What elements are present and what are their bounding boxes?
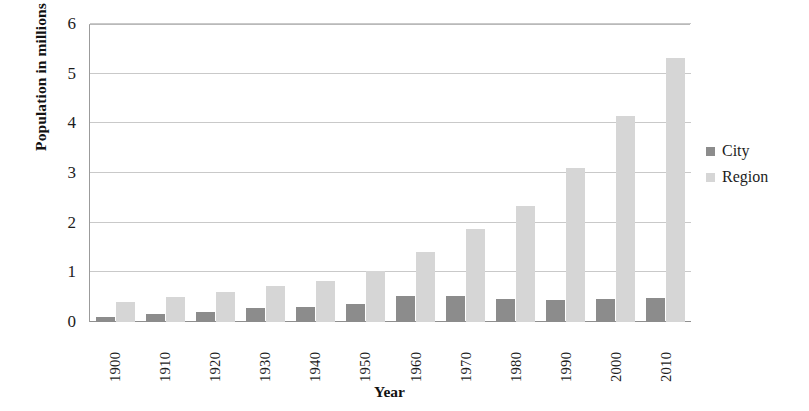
y-axis-tick-label: 0 bbox=[16, 312, 76, 332]
x-axis-tick-label: 1910 bbox=[157, 330, 171, 382]
bar-group bbox=[596, 24, 635, 322]
bar-region-1900 bbox=[116, 302, 135, 322]
bar-region-1910 bbox=[166, 297, 185, 322]
bar-chart: Population in millions 0123456 190019101… bbox=[0, 0, 809, 411]
legend-label: City bbox=[722, 143, 750, 159]
bar-region-1950 bbox=[366, 271, 385, 322]
bar-city-1970 bbox=[446, 296, 465, 322]
bar-group bbox=[546, 24, 585, 322]
bar-city-1900 bbox=[96, 317, 115, 322]
legend-swatch-region bbox=[706, 173, 715, 182]
bar-group bbox=[646, 24, 685, 322]
bar-city-1930 bbox=[246, 308, 265, 322]
bar-city-1980 bbox=[496, 299, 515, 322]
x-axis-tick-label: 1970 bbox=[458, 330, 472, 382]
bar-city-1960 bbox=[396, 296, 415, 322]
bar-city-1950 bbox=[346, 304, 365, 322]
legend-label: Region bbox=[722, 169, 768, 185]
bar-group bbox=[296, 24, 335, 322]
bar-city-1910 bbox=[146, 314, 165, 322]
x-axis-tick-label: 2010 bbox=[658, 330, 672, 382]
x-axis-tick-label: 1960 bbox=[408, 330, 422, 382]
legend: CityRegion bbox=[706, 138, 802, 190]
bar-region-1940 bbox=[316, 281, 335, 322]
bar-region-1970 bbox=[466, 229, 485, 322]
bar-region-1990 bbox=[566, 168, 585, 322]
x-axis-tick-label: 1920 bbox=[207, 330, 221, 382]
bar-group bbox=[196, 24, 235, 322]
bar-city-2000 bbox=[596, 299, 615, 322]
x-axis-tick-label: 1980 bbox=[508, 330, 522, 382]
x-axis-tick-label: 1950 bbox=[357, 330, 371, 382]
bar-region-1980 bbox=[516, 206, 535, 322]
legend-swatch-city bbox=[706, 147, 715, 156]
bar-group bbox=[446, 24, 485, 322]
bar-region-2000 bbox=[616, 116, 635, 322]
bar-group bbox=[146, 24, 185, 322]
bar-group bbox=[496, 24, 535, 322]
bar-group bbox=[346, 24, 385, 322]
bar-region-1920 bbox=[216, 292, 235, 322]
bar-city-1940 bbox=[296, 307, 315, 322]
y-axis-tick-label: 4 bbox=[16, 113, 76, 133]
y-axis-tick-labels: 0123456 bbox=[14, 24, 76, 322]
bar-region-2010 bbox=[666, 58, 685, 322]
x-axis-tick-label: 1900 bbox=[107, 330, 121, 382]
y-axis-tick-label: 3 bbox=[16, 163, 76, 183]
x-axis-tick-label: 1940 bbox=[307, 330, 321, 382]
bar-region-1930 bbox=[266, 286, 285, 322]
x-axis-title: Year bbox=[89, 383, 690, 401]
x-axis-tick-label: 1990 bbox=[558, 330, 572, 382]
bar-city-1920 bbox=[196, 312, 215, 322]
y-axis-tick-label: 5 bbox=[16, 64, 76, 84]
x-axis-tick-label: 1930 bbox=[257, 330, 271, 382]
plot-area bbox=[89, 24, 690, 322]
bar-region-1960 bbox=[416, 252, 435, 322]
y-axis-tick-label: 6 bbox=[16, 14, 76, 34]
y-axis-tick-label: 1 bbox=[16, 262, 76, 282]
bar-group bbox=[396, 24, 435, 322]
bar-group bbox=[96, 24, 135, 322]
bar-city-1990 bbox=[546, 300, 565, 322]
bar-city-2010 bbox=[646, 298, 665, 322]
bar-group bbox=[246, 24, 285, 322]
y-axis-tick-label: 2 bbox=[16, 213, 76, 233]
x-axis-tick-label: 2000 bbox=[608, 330, 622, 382]
legend-item-city[interactable]: City bbox=[706, 138, 802, 164]
legend-item-region[interactable]: Region bbox=[706, 164, 802, 190]
